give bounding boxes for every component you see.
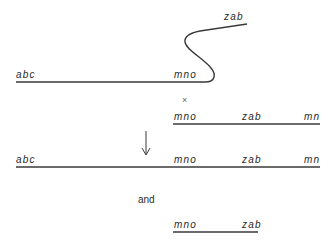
label-zab: zab [241, 111, 262, 122]
label-mn: mn [304, 154, 320, 165]
label-zab: zab [241, 154, 262, 165]
label-mno: mno [174, 219, 197, 230]
down-arrow-icon [142, 131, 150, 155]
cross-icon: × [182, 95, 187, 105]
label-mno: mno [174, 154, 197, 165]
label-zab: zab [223, 11, 244, 22]
label-mn: mn [304, 111, 320, 122]
recombination-diagram: abc mno zab × mno zab mn abc mno zab mn … [0, 0, 335, 247]
second-strand: mno zab mn [173, 111, 320, 124]
excised-fragment: mno zab [173, 219, 262, 232]
label-abc: abc [16, 154, 36, 165]
label-zab: zab [241, 219, 262, 230]
label-mno: mno [174, 111, 197, 122]
label-mno: mno [174, 69, 197, 80]
label-abc: abc [16, 69, 36, 80]
result-strand: abc mno zab mn [16, 154, 320, 167]
top-strand: abc mno zab [16, 11, 247, 82]
conjunction-text: and [138, 194, 155, 205]
top-strand-line [16, 24, 247, 82]
